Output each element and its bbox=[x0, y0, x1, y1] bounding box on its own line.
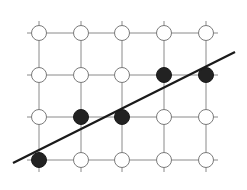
empty-pixel-circle bbox=[157, 110, 172, 125]
empty-pixel-circle bbox=[74, 153, 89, 168]
empty-pixel-circle bbox=[157, 26, 172, 41]
filled-pixel-circle bbox=[157, 68, 172, 83]
grid-lines bbox=[27, 21, 218, 172]
empty-pixel-circle bbox=[32, 26, 47, 41]
empty-pixel-circle bbox=[115, 153, 130, 168]
empty-pixel-circle bbox=[74, 68, 89, 83]
empty-pixel-circle bbox=[199, 26, 214, 41]
empty-pixel-circle bbox=[199, 153, 214, 168]
empty-pixel-circle bbox=[115, 26, 130, 41]
empty-pixel-circle bbox=[157, 153, 172, 168]
empty-pixel-circle bbox=[32, 110, 47, 125]
empty-pixel-circle bbox=[115, 68, 130, 83]
line-rasterization-diagram bbox=[0, 0, 247, 190]
empty-pixel-circle bbox=[32, 68, 47, 83]
filled-pixel-circle bbox=[74, 110, 89, 125]
empty-pixel-circle bbox=[74, 26, 89, 41]
empty-pixel-circle bbox=[199, 110, 214, 125]
filled-pixel-circle bbox=[32, 153, 47, 168]
